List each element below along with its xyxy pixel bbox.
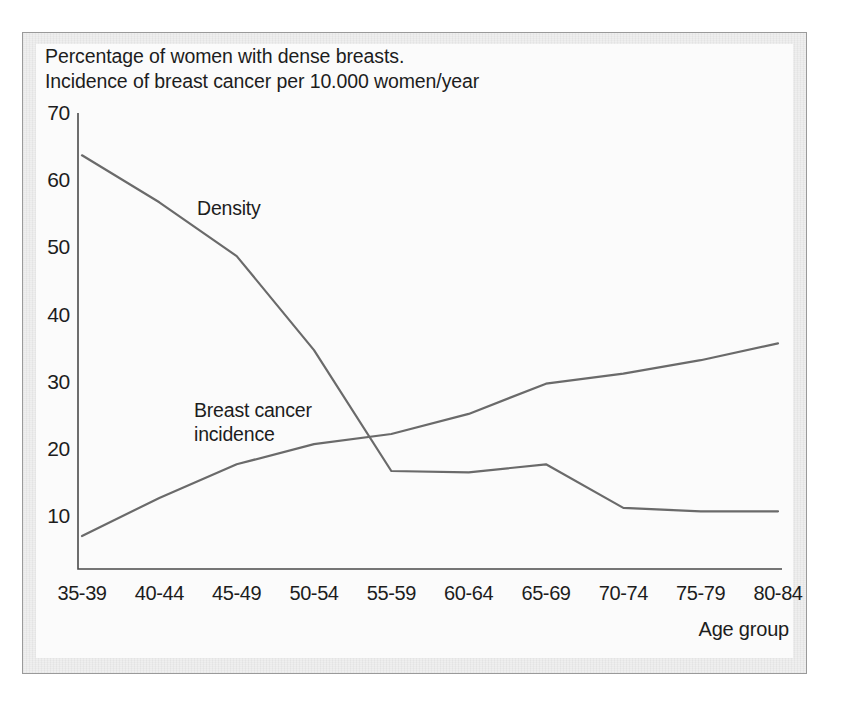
y-axis-tick-40: 40 — [24, 303, 70, 327]
chart-axes — [78, 113, 782, 569]
series-line-density — [82, 155, 778, 511]
y-axis-tick-20: 20 — [24, 437, 70, 461]
y-axis-tick-70: 70 — [24, 101, 70, 125]
x-axis-tick-80-84: 80-84 — [733, 582, 823, 605]
axis-lines — [78, 113, 782, 569]
figure-container: Percentage of women with dense breasts. … — [0, 0, 857, 710]
data-series-layer — [82, 155, 778, 536]
x-axis-title: Age group — [699, 618, 790, 641]
y-axis-tick-30: 30 — [24, 370, 70, 394]
y-axis-tick-10: 10 — [24, 504, 70, 528]
series-label-density: Density — [197, 196, 261, 220]
series-label-breast-cancer-incidence: Breast cancer incidence — [194, 398, 312, 446]
y-axis-tick-50: 50 — [24, 235, 70, 259]
series-line-breast-cancer-incidence — [82, 343, 778, 536]
y-axis-tick-60: 60 — [24, 168, 70, 192]
